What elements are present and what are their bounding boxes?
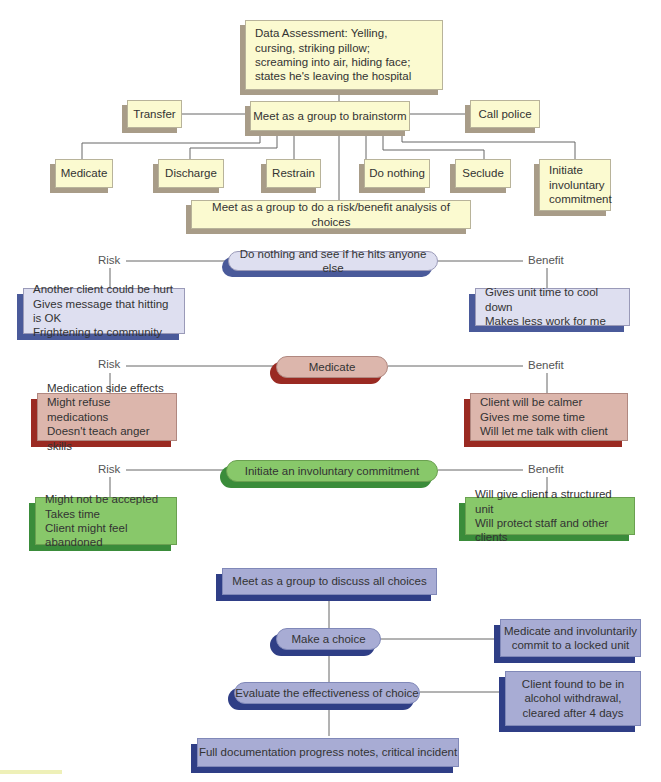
choice-label: Medicate — [309, 360, 356, 374]
benefits-involuntary-commitment: Will give client a structured unit Will … — [465, 497, 635, 535]
option-do-nothing: Do nothing — [364, 159, 430, 188]
risks-medicate: Medication side effects Might refuse med… — [37, 393, 177, 441]
discuss-choices-label: Meet as a group to discuss all choices — [232, 574, 426, 588]
documentation-label: Full documentation progress notes, criti… — [199, 745, 457, 759]
transfer-label: Transfer — [133, 107, 175, 121]
choice-label: Initiate an involuntary commitment — [245, 464, 420, 478]
option-label: Discharge — [165, 166, 217, 180]
option-discharge: Discharge — [158, 159, 224, 188]
choice-medicate: Medicate — [276, 356, 388, 378]
evaluate-result-box: Client found to be in alcohol withdrawal… — [505, 671, 641, 726]
evaluate-choice-label: Evaluate the effectiveness of choice — [235, 686, 418, 700]
decision-flowchart: Data Assessment: Yelling, cursing, strik… — [0, 0, 661, 782]
option-label: Medicate — [61, 166, 108, 180]
risk-label: Risk — [95, 463, 123, 475]
documentation-box: Full documentation progress notes, criti… — [197, 738, 459, 767]
risks-text: Another client could be hurt Gives messa… — [33, 282, 175, 340]
evaluate-result-text: Client found to be in alcohol withdrawal… — [522, 677, 624, 720]
risks-text: Might not be accepted Takes time Client … — [45, 492, 167, 550]
call-police-label: Call police — [478, 107, 531, 121]
option-involuntary-commitment: Initiate involuntary commitment — [539, 159, 611, 211]
brainstorm-label: Meet as a group to brainstorm — [253, 109, 406, 123]
benefit-label: Benefit — [525, 254, 567, 266]
risk-label: Risk — [95, 254, 123, 266]
benefits-text: Will give client a structured unit Will … — [475, 487, 625, 545]
benefits-do-nothing: Gives unit time to cool down Makes less … — [475, 288, 630, 326]
call-police-box: Call police — [470, 100, 540, 128]
choice-result-box: Medicate and involuntarily commit to a l… — [500, 619, 641, 657]
discuss-choices-box: Meet as a group to discuss all choices — [222, 568, 437, 595]
data-assessment-box: Data Assessment: Yelling, cursing, strik… — [245, 20, 443, 90]
risks-text: Medication side effects Might refuse med… — [47, 381, 167, 453]
benefits-text: Gives unit time to cool down Makes less … — [485, 285, 620, 328]
option-label: Seclude — [462, 166, 504, 180]
risk-benefit-box: Meet as a group to do a risk/benefit ana… — [191, 200, 471, 229]
choice-involuntary-commitment: Initiate an involuntary commitment — [226, 460, 438, 482]
risks-do-nothing: Another client could be hurt Gives messa… — [23, 288, 185, 334]
option-medicate: Medicate — [55, 159, 113, 188]
risks-involuntary-commitment: Might not be accepted Takes time Client … — [35, 497, 177, 545]
choice-do-nothing: Do nothing and see if he hits anyone els… — [228, 251, 438, 271]
choice-result-text: Medicate and involuntarily commit to a l… — [504, 624, 637, 653]
transfer-box: Transfer — [127, 100, 182, 128]
benefit-label: Benefit — [525, 463, 567, 475]
option-label: Restrain — [272, 166, 315, 180]
data-assessment-text: Data Assessment: Yelling, cursing, strik… — [255, 26, 411, 84]
make-choice-label: Make a choice — [291, 632, 365, 646]
benefits-medicate: Client will be calmer Gives me some time… — [470, 393, 628, 441]
benefits-text: Client will be calmer Gives me some time… — [480, 395, 608, 438]
brainstorm-box: Meet as a group to brainstorm — [250, 101, 410, 131]
benefit-label: Benefit — [525, 359, 567, 371]
make-choice-pill: Make a choice — [276, 628, 381, 650]
risk-label: Risk — [95, 358, 123, 370]
option-label: Initiate involuntary commitment — [549, 163, 612, 206]
decorative-strip — [0, 770, 62, 774]
choice-label: Do nothing and see if he hits anyone els… — [229, 247, 437, 276]
option-label: Do nothing — [369, 166, 425, 180]
option-restrain: Restrain — [266, 159, 321, 188]
evaluate-choice-pill: Evaluate the effectiveness of choice — [234, 682, 420, 704]
option-seclude: Seclude — [455, 159, 511, 188]
risk-benefit-label: Meet as a group to do a risk/benefit ana… — [192, 200, 470, 229]
